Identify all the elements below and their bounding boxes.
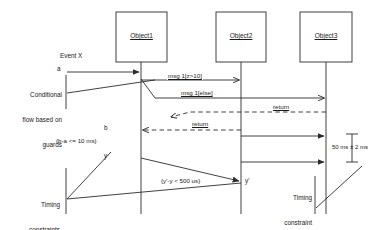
annotation-timing-constraints: Timing constraints [0,185,60,230]
message-label-return-object3: return [272,103,290,111]
annotation-conditional-flow: Conditional flow based on guards [0,75,62,165]
annotation-conditional-flow-line-3: guards [0,141,62,149]
constraint-y-prime-y: {y'-y < 500 us} [160,177,201,185]
lifeline-name-object2[interactable]: Object2 [216,32,266,40]
lifeline-name-object1[interactable]: Object1 [116,32,167,40]
lifeline-name-object3[interactable]: Object3 [300,32,352,40]
label-event-x: Event X [60,52,82,60]
arrow-return-object3 [171,112,326,117]
label-event-y-prime: y' [245,177,249,185]
label-event-y: y [104,152,107,160]
sequence-diagram-canvas: Object1 Object2 Object3 Event X a b y y'… [0,0,381,230]
message-label-msg1-z-gt-10: msg 1[z>10] [167,72,203,80]
label-event-a: a [57,65,61,73]
annotation-timing-constraints-line-2: constraints [0,226,60,230]
leader-timing-constraints-2 [67,183,241,199]
leader-timing-alt [316,166,362,208]
message-label-msg1-else: msg 1[else] [180,89,214,97]
annotation-conditional-flow-line-2: flow based on [0,116,62,124]
annotation-timing-constraint-alternative: Timing constraint (alternative notation) [255,178,312,230]
annotation-timing-constraints-line-1: Timing [0,201,60,209]
annotation-timing-alt-line-1: Timing [255,194,312,202]
annotation-timing-alt-line-2: constraint [255,219,312,227]
leader-conditional-flow [67,80,155,93]
annotation-conditional-flow-line-1: Conditional [0,91,62,99]
message-label-return-object1: return [191,120,209,128]
label-event-b: b [104,124,108,132]
duration-marker-label: 50 ms ± 2 ms [332,144,368,151]
